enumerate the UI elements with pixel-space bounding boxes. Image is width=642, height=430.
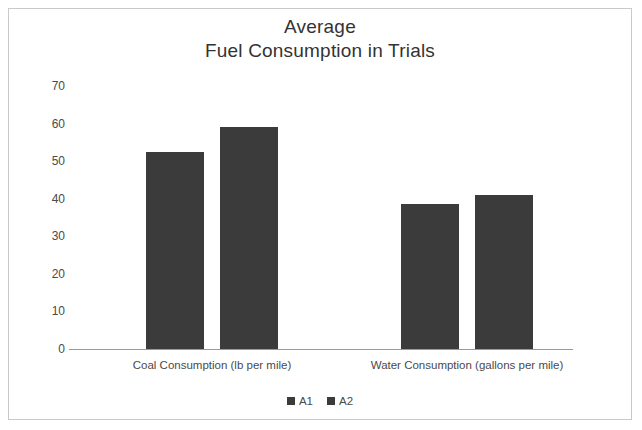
legend-swatch-icon [327,397,335,405]
y-axis-tick-label: 50 [9,154,65,168]
chart-title: Average Fuel Consumption in Trials [9,15,631,63]
x-axis-category-label: Coal Consumption (lb per mile) [133,359,292,371]
chart-title-line-1: Average [9,15,631,39]
legend-label: A1 [299,395,313,407]
y-axis-tick-label: 10 [9,304,65,318]
legend-item-a2[interactable]: A2 [327,395,353,407]
y-axis-tick-label: 70 [9,79,65,93]
bar-a2-group-1 [220,127,278,349]
legend-swatch-icon [287,397,295,405]
y-axis: 010203040506070 [9,86,65,349]
plot-area [73,86,571,349]
x-axis-category-labels: Coal Consumption (lb per mile)Water Cons… [65,359,585,381]
bar-a1-group-2 [401,204,459,349]
y-axis-tick-label: 60 [9,117,65,131]
chart-frame: Average Fuel Consumption in Trials 01020… [8,8,632,420]
x-axis-category-label: Water Consumption (gallons per mile) [371,359,564,371]
legend-item-a1[interactable]: A1 [287,395,313,407]
x-axis-line [69,349,573,350]
y-axis-tick-label: 0 [9,342,65,356]
y-axis-tick-label: 30 [9,229,65,243]
chart-legend: A1A2 [9,395,631,407]
legend-label: A2 [339,395,353,407]
bar-a1-group-1 [146,152,204,349]
y-axis-tick-label: 20 [9,267,65,281]
y-axis-tick-label: 40 [9,192,65,206]
chart-title-line-2: Fuel Consumption in Trials [9,39,631,63]
bar-a2-group-2 [475,195,533,349]
